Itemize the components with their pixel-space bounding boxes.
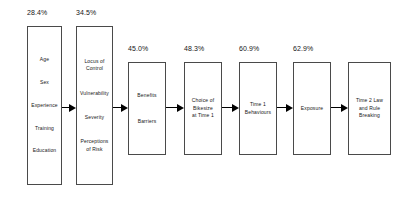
node-beliefs-line-3: Vulnerability	[80, 90, 109, 98]
arrow-shaft	[113, 107, 121, 109]
node-demographics-item: Sex	[40, 79, 49, 87]
node-demographics-item: Education	[33, 147, 57, 155]
node-beliefs-line-5: Perceptions	[80, 138, 108, 146]
arrow-shaft	[277, 107, 286, 109]
percent-label-exposure: 62.9%	[293, 44, 313, 53]
node-time-2-law-and-rule-breaking[interactable]: Time 2 Law and Rule Breaking	[348, 62, 391, 155]
node-beliefs-item: Perceptions of Risk	[80, 138, 108, 153]
arrow-time-1-behaviours-to-exposure	[277, 103, 293, 112]
node-time-2-law-and-rule-breaking-line-2: and Rule	[359, 105, 380, 113]
arrow-head	[341, 104, 348, 112]
node-benefits-barriers-line-2: Barriers	[138, 118, 157, 126]
node-beliefs-item: Vulnerability	[80, 90, 109, 98]
arrow-choice-of-bikesize-to-time-1-behaviours	[222, 103, 239, 112]
node-choice-of-bikesize-line-1: Choice of	[192, 97, 214, 105]
node-beliefs[interactable]: Locus of Control Vulnerability Severity …	[76, 26, 113, 185]
node-choice-of-bikesize[interactable]: Choice of Bikesize at Time 1	[184, 62, 222, 155]
node-beliefs-line-4: Severity	[85, 114, 104, 122]
node-exposure[interactable]: Exposure	[293, 62, 331, 155]
percent-label-benefits-barriers: 45.0%	[128, 44, 148, 53]
node-demographics-item: Age	[40, 56, 49, 64]
node-beliefs-line-6: of Risk	[86, 146, 102, 154]
node-exposure-line-1: Exposure	[301, 105, 323, 113]
node-beliefs-line-2: Control	[86, 65, 103, 73]
node-demographics-item: Training	[35, 125, 54, 133]
arrow-head	[69, 104, 76, 112]
percent-label-demographics: 28.4%	[27, 8, 47, 17]
node-benefits-barriers-item: Barriers	[138, 118, 157, 126]
arrow-head	[232, 104, 239, 112]
node-demographics-line-3: Experience	[31, 102, 58, 110]
arrow-shaft	[222, 107, 232, 109]
node-beliefs-item: Locus of Control	[84, 58, 104, 73]
arrow-shaft	[62, 107, 69, 109]
node-demographics-line-5: Education	[33, 147, 57, 155]
node-demographics-line-1: Age	[40, 56, 49, 64]
arrow-shaft	[166, 107, 177, 109]
arrow-exposure-to-time-2-law-and-rule-breaking	[331, 103, 348, 112]
node-demographics[interactable]: Age Sex Experience Training Education	[27, 26, 62, 185]
arrow-benefits-barriers-to-choice-of-bikesize	[166, 103, 184, 112]
node-beliefs-line-1: Locus of	[84, 58, 104, 66]
node-demographics-line-4: Training	[35, 125, 54, 133]
percent-label-beliefs: 34.5%	[76, 8, 96, 17]
node-demographics-item: Experience	[31, 102, 58, 110]
arrow-shaft	[331, 107, 341, 109]
node-benefits-barriers-item: Benefits	[137, 92, 156, 100]
node-beliefs-item: Severity	[85, 114, 104, 122]
arrow-demographics-to-beliefs	[62, 103, 76, 112]
node-choice-of-bikesize-line-2: Bikesize	[193, 105, 213, 113]
node-benefits-barriers-line-1: Benefits	[137, 92, 156, 100]
node-demographics-line-2: Sex	[40, 79, 49, 87]
node-benefits-barriers[interactable]: Benefits Barriers	[128, 62, 166, 155]
node-time-1-behaviours-line-1: Time 1	[250, 101, 266, 109]
node-choice-of-bikesize-line-3: at Time 1	[192, 112, 214, 120]
arrow-head	[121, 104, 128, 112]
flow-diagram-canvas: 28.4% 34.5% 45.0% 48.3% 60.9% 62.9% Age …	[0, 0, 402, 208]
arrow-beliefs-to-benefits-barriers	[113, 103, 128, 112]
node-time-2-law-and-rule-breaking-line-3: Breaking	[359, 112, 380, 120]
percent-label-time-1-behaviours: 60.9%	[239, 44, 259, 53]
percent-label-choice-of-bikesize: 48.3%	[184, 44, 204, 53]
node-time-1-behaviours[interactable]: Time 1 Behaviours	[239, 62, 277, 155]
arrow-head	[177, 104, 184, 112]
node-time-1-behaviours-line-2: Behaviours	[245, 109, 272, 117]
arrow-head	[286, 104, 293, 112]
node-time-2-law-and-rule-breaking-line-1: Time 2 Law	[356, 97, 383, 105]
